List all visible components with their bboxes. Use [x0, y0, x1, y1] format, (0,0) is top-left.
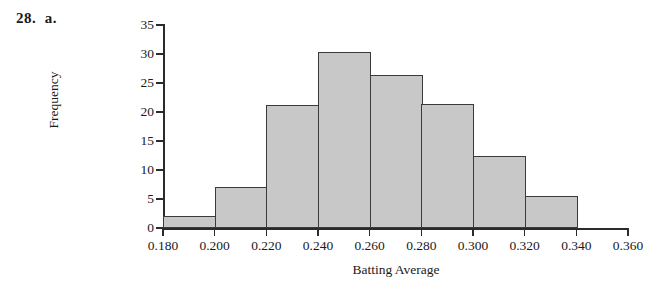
y-axis-tick-labels: 05101520253035: [116, 0, 154, 300]
x-axis-title: Batting Average: [163, 262, 629, 278]
y-axis-tick-label: 30: [128, 47, 154, 61]
histogram-bar: [318, 52, 371, 228]
y-axis-tick-label: 0: [128, 221, 154, 235]
histogram-bar: [421, 104, 474, 228]
y-axis-tick-label: 5: [128, 192, 154, 206]
histogram-bar: [215, 187, 268, 228]
histogram-bar: [163, 216, 216, 228]
histogram-bar: [525, 196, 578, 228]
x-axis-tick: [576, 228, 578, 236]
x-axis-tick: [472, 228, 474, 236]
y-axis-title: Frequency: [46, 40, 62, 160]
x-axis-tick: [627, 228, 629, 236]
histogram-bar: [266, 105, 319, 228]
x-axis-tick: [266, 228, 268, 236]
x-axis-tick: [524, 228, 526, 236]
x-axis-tick: [421, 228, 423, 236]
plot-area: [163, 25, 628, 228]
histogram-figure: 05101520253035 0.1800.2000.2200.2400.260…: [0, 0, 667, 300]
histogram-bar: [473, 156, 526, 228]
x-axis-tick: [162, 228, 164, 236]
x-axis-tick: [369, 228, 371, 236]
y-axis-tick-label: 20: [128, 105, 154, 119]
histogram-bar: [370, 75, 423, 228]
y-axis-tick-label: 15: [128, 134, 154, 148]
x-axis-line: [163, 228, 629, 230]
y-axis-tick-label: 25: [128, 76, 154, 90]
y-axis-tick-label: 35: [128, 18, 154, 32]
y-axis-tick-label: 10: [128, 163, 154, 177]
x-axis-tick: [214, 228, 216, 236]
x-axis-tick-label: 0.360: [598, 239, 658, 253]
x-axis-tick: [317, 228, 319, 236]
